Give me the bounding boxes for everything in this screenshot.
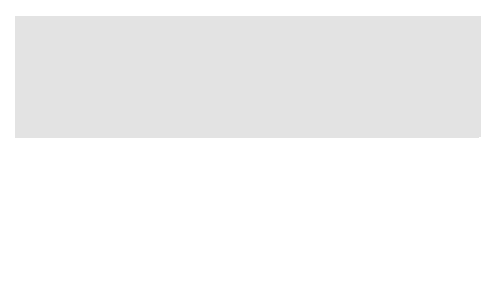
pie-charts bbox=[0, 0, 489, 301]
